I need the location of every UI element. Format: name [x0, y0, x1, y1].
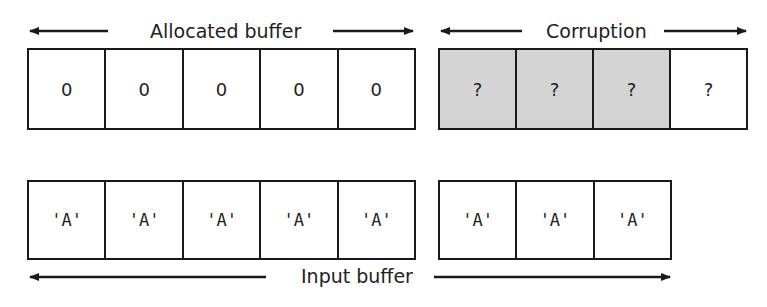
- allocated-cell: 0: [261, 50, 338, 128]
- allocated-buffer: 0 0 0 0 0: [27, 48, 416, 130]
- input-cell: 'A': [339, 182, 414, 258]
- input-cell: 'A': [261, 182, 338, 258]
- input-buffer-label: Input buffer: [301, 265, 413, 287]
- corrupted-cell: ?: [517, 50, 594, 128]
- input-cell: 'A': [106, 182, 183, 258]
- input-cell: 'A': [29, 182, 106, 258]
- input-buffer-group-1: 'A' 'A' 'A' 'A' 'A': [27, 180, 416, 260]
- corruption-label: Corruption: [546, 20, 647, 42]
- allocated-cell: 0: [29, 50, 106, 128]
- input-cell: 'A': [184, 182, 261, 258]
- arrows-layer: [0, 0, 767, 307]
- input-buffer-group-2: 'A' 'A' 'A': [438, 180, 672, 260]
- corruption-region: ? ? ? ?: [438, 48, 748, 130]
- overflow-cell: 'A': [440, 182, 517, 258]
- overflow-cell: 'A': [517, 182, 594, 258]
- allocated-cell: 0: [339, 50, 414, 128]
- allocated-buffer-label: Allocated buffer: [150, 20, 301, 42]
- allocated-cell: 0: [184, 50, 261, 128]
- overflow-cell: 'A': [595, 182, 670, 258]
- unknown-cell: ?: [671, 50, 746, 128]
- corrupted-cell: ?: [440, 50, 517, 128]
- allocated-cell: 0: [106, 50, 183, 128]
- corrupted-cell: ?: [594, 50, 671, 128]
